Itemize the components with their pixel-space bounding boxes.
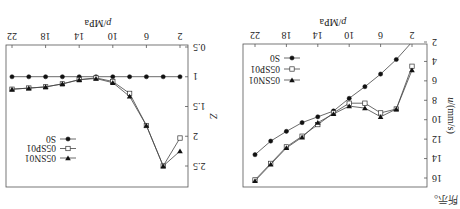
filled-circle-marker-icon [253,153,257,157]
y-tick-label: 4 [432,56,437,67]
figure-page: 所示。 2610141822246810121416p/MPau/(mm/s)0… [0,0,460,209]
y-tick-label: 6 [432,75,437,86]
filled-circle-marker-icon [44,75,48,79]
y-tick-label: 2.5 [193,161,206,172]
x-tick-label: 2 [410,30,415,41]
series-line [255,70,412,181]
y-tick-label: 14 [432,153,442,164]
filled-circle-marker-icon [144,75,148,79]
legend-item: S0 [270,53,300,63]
legend-item: 05SN01 [25,153,76,163]
y-axis-label: Z [208,113,219,119]
x-tick-label: 22 [7,31,17,42]
x-tick-label: 18 [281,30,291,41]
x-axis-label: p/MPa [319,17,347,28]
chart-velocity-vs-pressure: 2610141822246810121416p/MPau/(mm/s)05SN0… [243,17,457,187]
filled-circle-marker-icon [379,72,383,76]
y-tick-label: 1 [193,71,198,82]
filled-circle-marker-icon [290,56,294,60]
y-tick-label: 8 [432,95,437,106]
x-axis-unit: /MPa [84,18,106,29]
open-square-marker-icon [290,67,294,71]
open-square-marker-icon [363,101,367,105]
y-tick-label: 2 [432,37,437,48]
x-tick-label: 10 [108,31,118,42]
x-tick-label: 10 [344,30,354,41]
filled-circle-marker-icon [316,115,320,119]
filled-circle-marker-icon [178,75,182,79]
x-tick-label: 6 [378,30,383,41]
y-axis-unit: /(mm/s) [445,102,457,134]
x-axis-label: p/MPa [84,18,112,29]
y-tick-label: 2 [193,131,198,142]
chart-z-vs-pressure: 26101418220.511.522.5p/MPaZ05SN0105SP01S… [6,18,219,187]
caption-fragment: 所示。 [428,194,458,205]
filled-triangle-down-marker-icon [177,149,183,154]
legend-label: 05SN01 [25,153,56,163]
filled-circle-marker-icon [161,75,165,79]
filled-circle-marker-icon [284,129,288,133]
x-tick-label: 18 [41,31,51,42]
filled-circle-marker-icon [10,75,14,79]
open-square-marker-icon [66,146,70,150]
filled-circle-marker-icon [27,75,31,79]
y-tick-label: 12 [432,134,442,145]
legend-label: 05SP01 [26,143,56,153]
legend-label: S0 [46,134,56,144]
y-axis-label: u/(mm/s) [445,97,457,134]
legend-label: 05SP01 [250,64,280,74]
filled-circle-marker-icon [66,137,70,141]
x-axis-unit: /MPa [319,17,341,28]
filled-circle-marker-icon [363,85,367,89]
legend-item: 05SN01 [249,75,300,85]
open-square-marker-icon [178,136,182,140]
y-tick-label: 10 [432,114,442,125]
y-tick-label: 0.5 [193,42,206,53]
x-tick-label: 6 [144,31,149,42]
x-tick-label: 14 [74,31,84,42]
x-tick-label: 2 [178,31,183,42]
filled-circle-marker-icon [394,57,398,61]
filled-circle-marker-icon [60,75,64,79]
y-tick-label: 1.5 [193,101,206,112]
filled-circle-marker-icon [111,75,115,79]
y-axis-variable: Z [208,113,219,119]
filled-circle-marker-icon [269,139,273,143]
legend-item: S0 [46,134,76,144]
legend-item: 05SP01 [250,64,300,74]
filled-circle-marker-icon [300,121,304,125]
filled-circle-marker-icon [128,75,132,79]
filled-circle-marker-icon [347,96,351,100]
x-tick-label: 22 [250,30,260,41]
legend-item: 05SP01 [26,143,76,153]
y-tick-label: 16 [432,173,442,184]
rotated-figure: 所示。 2610141822246810121416p/MPau/(mm/s)0… [0,0,460,209]
legend-label: 05SN01 [249,75,280,85]
x-tick-label: 14 [313,30,323,41]
legend-label: S0 [270,53,280,63]
